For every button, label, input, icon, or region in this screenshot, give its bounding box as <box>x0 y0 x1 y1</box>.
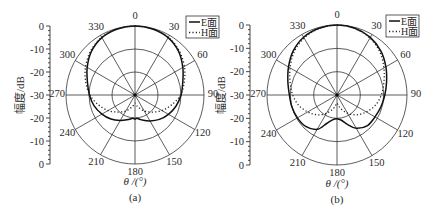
grid-spoke <box>75 95 135 130</box>
radial-axis-ticks: 0-10-20-30-20-100 <box>30 21 50 170</box>
grid-spoke <box>135 95 195 130</box>
radial-tick-label: -20 <box>30 113 44 124</box>
grid-spoke <box>302 34 337 95</box>
panel-caption: (b) <box>331 193 344 206</box>
radial-tick-label: -30 <box>30 90 44 101</box>
radial-axis: 0-10-20-30-20-100 <box>30 21 50 170</box>
grid-spoke <box>276 95 337 130</box>
grid-spoke <box>337 95 398 130</box>
radial-tick-label: 0 <box>39 21 44 32</box>
radial-axis-ticks: 0-10-20-30-20-100 <box>230 20 250 171</box>
angle-label: 330 <box>88 21 104 32</box>
angle-label: 0 <box>334 9 339 20</box>
legend: E面 H面 <box>186 16 219 38</box>
x-axis-label: θ /(°) <box>326 177 349 190</box>
radial-tick-label: -20 <box>230 113 244 124</box>
grid-spoke <box>101 35 136 95</box>
angle-label: 0 <box>132 10 137 21</box>
legend-e-label: E面 <box>401 16 417 27</box>
grid-spoke <box>135 61 195 96</box>
angle-label: 120 <box>398 128 414 139</box>
radial-tick-label: 0 <box>39 159 44 170</box>
angle-label: 240 <box>261 128 277 139</box>
legend: E面 H面 <box>386 15 419 37</box>
angle-label: 300 <box>261 49 277 60</box>
angle-label: 270 <box>49 88 65 99</box>
panel-caption: (a) <box>129 191 142 204</box>
radial-tick-label: 0 <box>239 20 244 31</box>
angle-label: 300 <box>60 49 76 60</box>
center-point <box>133 93 137 97</box>
grid-spoke <box>135 95 170 155</box>
radial-tick-label: -20 <box>30 67 44 78</box>
angle-label: 150 <box>166 156 182 167</box>
angle-label: 270 <box>250 88 266 99</box>
angle-label: 210 <box>290 157 306 168</box>
angle-label: 30 <box>169 21 180 32</box>
grid-spoke <box>337 34 372 95</box>
center-point <box>335 93 339 97</box>
y-axis-label: 幅度/dB <box>13 76 26 114</box>
grid-spoke <box>75 61 135 96</box>
angle-label: 150 <box>369 157 385 168</box>
x-axis-label: θ /(°) <box>124 175 147 188</box>
radial-tick-label: -10 <box>30 44 44 55</box>
radial-axis: 0-10-20-30-20-100 <box>230 20 250 171</box>
angle-label: 30 <box>371 20 382 31</box>
radial-tick-label: -10 <box>30 136 44 147</box>
angle-label: 120 <box>195 127 211 138</box>
polar-chart-b: 0306090120150180210240270300330 0-10-20-… <box>214 9 422 206</box>
figure: 0306090120150180210240270300330 0-10-20-… <box>0 0 436 218</box>
radial-tick-label: -10 <box>230 136 244 147</box>
angle-label: 90 <box>411 88 422 99</box>
polar-chart-a: 0306090120150180210240270300330 0-10-20-… <box>13 10 219 204</box>
grid-spoke <box>302 95 337 156</box>
angle-label: 240 <box>60 127 76 138</box>
grid-spoke <box>101 95 136 155</box>
angle-label: 60 <box>197 49 208 60</box>
legend-e-label: E面 <box>201 17 217 28</box>
radial-tick-label: 0 <box>239 160 244 171</box>
radial-tick-label: -30 <box>230 90 244 101</box>
grid-spoke <box>135 35 170 95</box>
angle-label: 60 <box>400 49 411 60</box>
radial-tick-label: -20 <box>230 66 244 77</box>
y-axis-label: 幅度/dB <box>214 76 227 114</box>
angle-label: 210 <box>88 156 104 167</box>
legend-h-label: H面 <box>401 26 418 37</box>
radial-tick-label: -10 <box>230 43 244 54</box>
grid-spoke <box>276 60 337 95</box>
angle-label: 330 <box>290 20 306 31</box>
legend-h-label: H面 <box>201 27 218 38</box>
grid-spoke <box>337 60 398 95</box>
